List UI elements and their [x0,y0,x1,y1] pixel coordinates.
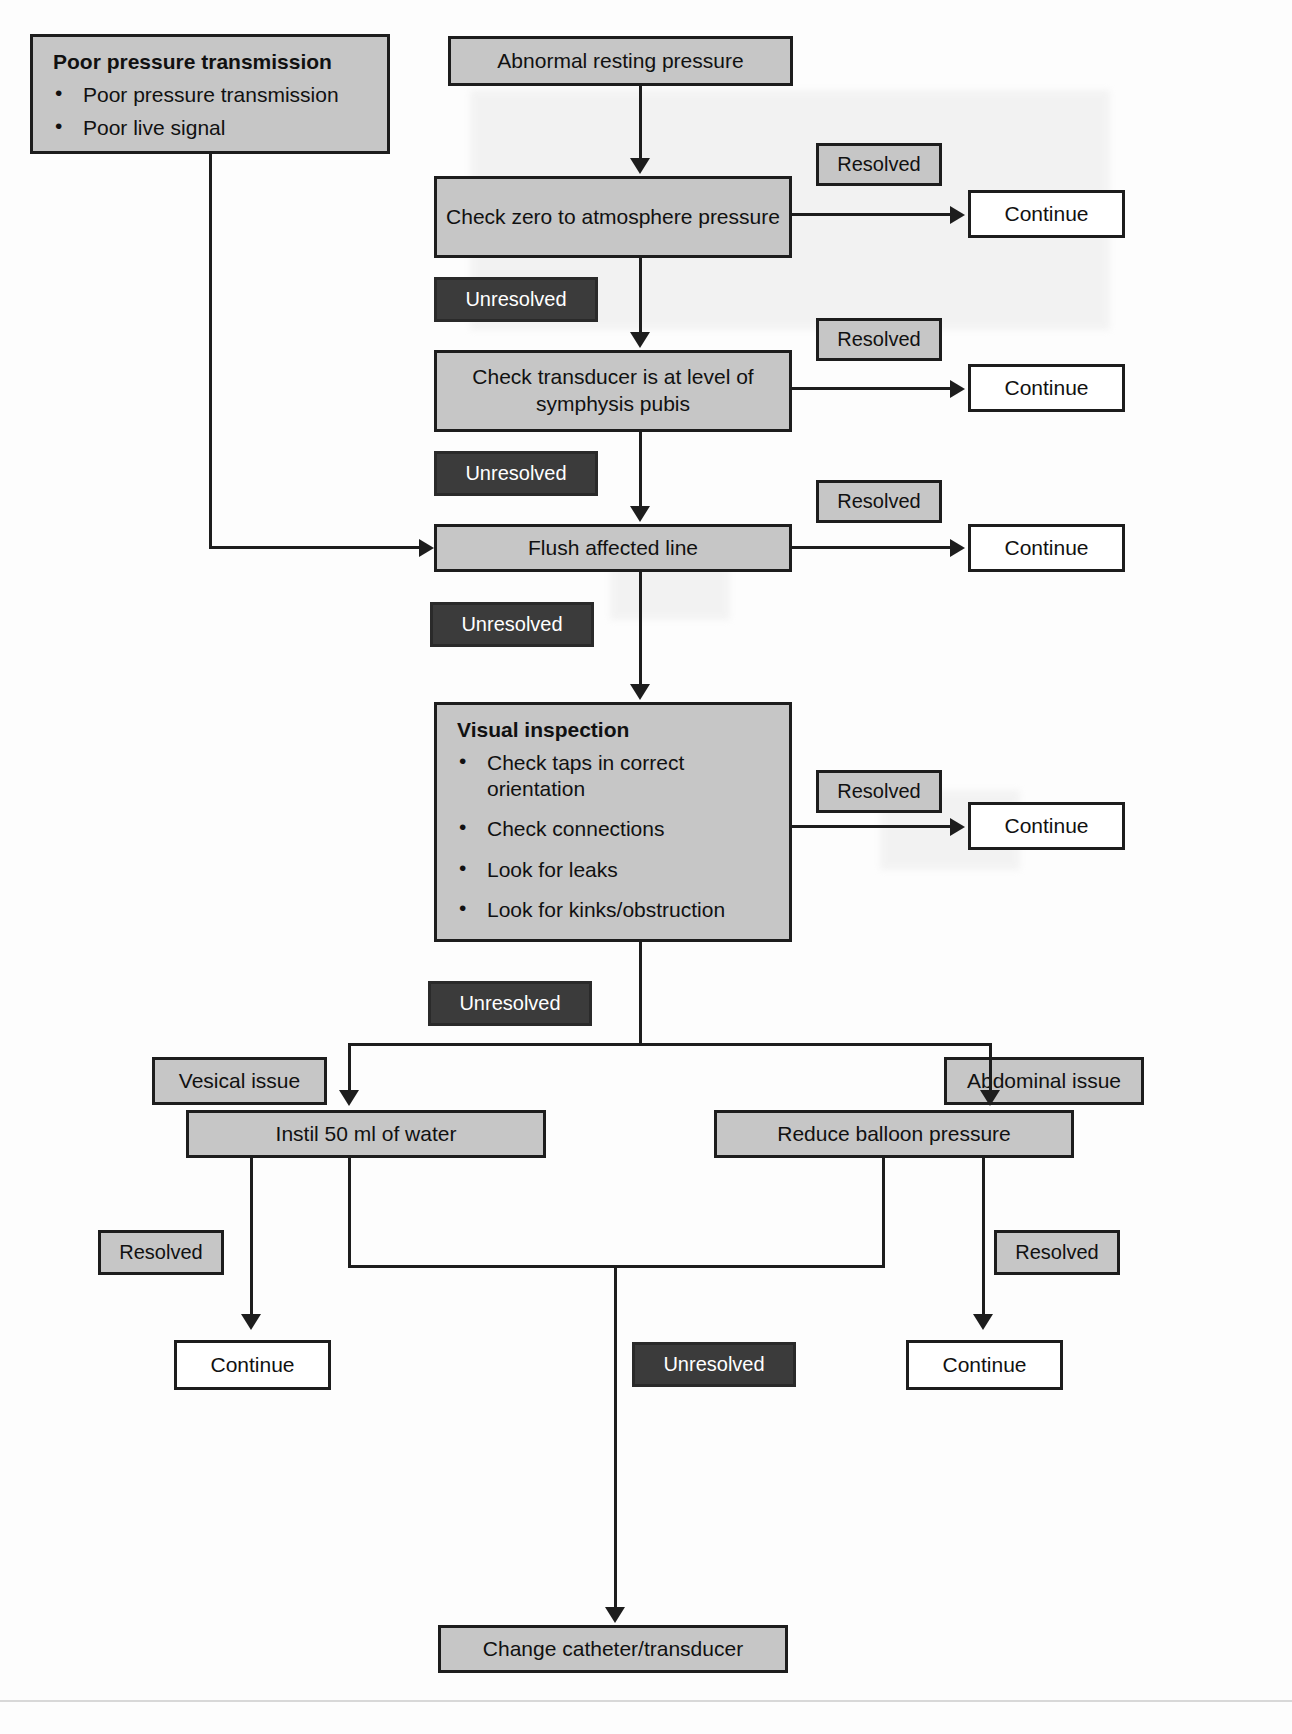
visual-inspection-heading: Visual inspection [457,717,775,744]
node-check-zero[interactable]: Check zero to atmosphere pressure [434,176,792,258]
arrow-into-instil-water [339,1090,359,1106]
edge-label-unresolved[interactable]: Unresolved [434,277,598,322]
arrow-into-change-catheter [605,1607,625,1623]
list-item: Poor live signal [49,115,373,141]
edge-visual-down [639,942,642,1046]
flowchart-page: Poor pressure transmission Poor pressure… [0,0,1292,1734]
list-item: Look for leaks [453,857,775,883]
arrow-into-visual-inspection [630,684,650,700]
edge-flush-to-visual [639,572,642,686]
node-change-catheter[interactable]: Change catheter/transducer [438,1625,788,1673]
edge-checkzero-to-transducer [639,258,642,334]
list-item: Check connections [453,816,775,842]
list-item: Poor pressure transmission [49,82,373,108]
node-reduce-balloon-pressure[interactable]: Reduce balloon pressure [714,1110,1074,1158]
edge-label-resolved[interactable]: Resolved [994,1230,1120,1275]
arrow-into-continue-1 [950,206,965,224]
edge-visual-resolved [792,825,950,828]
edge-instil-unresolved-down [348,1158,351,1268]
arrow-into-flush [630,506,650,522]
edge-label-unresolved[interactable]: Unresolved [434,451,598,496]
visual-inspection-list: Check taps in correct orientation Check … [453,750,775,923]
arrow-into-continue-5 [241,1314,261,1330]
list-item: Check taps in correct orientation [453,750,775,803]
edge-instil-resolved [250,1158,253,1316]
arrow-into-check-zero [630,158,650,174]
edge-poortransmission-down [209,154,212,549]
edge-label-resolved[interactable]: Resolved [816,480,942,523]
edge-bus-left-drop [348,1043,351,1092]
edge-label-unresolved[interactable]: Unresolved [430,602,594,647]
edge-label-resolved[interactable]: Resolved [98,1230,224,1275]
edge-balloon-unresolved-down [882,1158,885,1268]
edge-bus-right-drop [989,1043,992,1092]
edge-label-resolved[interactable]: Resolved [816,318,942,361]
poor-transmission-heading: Poor pressure transmission [53,49,373,76]
arrow-into-continue-3 [950,539,965,557]
edge-abnormal-to-checkzero [639,86,642,160]
edge-balloon-resolved [982,1158,985,1316]
edge-label-unresolved[interactable]: Unresolved [632,1342,796,1387]
edge-flush-resolved [792,546,950,549]
node-poor-pressure-transmission[interactable]: Poor pressure transmission Poor pressure… [30,34,390,154]
edge-checkzero-resolved [792,213,950,216]
terminal-continue[interactable]: Continue [968,364,1125,412]
arrow-into-continue-6 [973,1314,993,1330]
poor-transmission-list: Poor pressure transmission Poor live sig… [49,82,373,142]
edge-poortransmission-right [209,546,419,549]
terminal-continue[interactable]: Continue [174,1340,331,1390]
terminal-continue[interactable]: Continue [968,190,1125,238]
arrow-into-continue-2 [950,380,965,398]
list-item: Look for kinks/obstruction [453,897,775,923]
node-instil-water[interactable]: Instil 50 ml of water [186,1110,546,1158]
edge-merge-to-change-catheter [614,1265,617,1610]
edge-transducer-to-flush [639,432,642,508]
node-flush-affected-line[interactable]: Flush affected line [434,524,792,572]
edge-label-resolved[interactable]: Resolved [816,770,942,813]
terminal-continue[interactable]: Continue [968,524,1125,572]
node-vesical-issue[interactable]: Vesical issue [152,1057,327,1105]
arrow-into-flush-line [419,539,434,557]
edge-label-resolved[interactable]: Resolved [816,143,942,186]
node-check-transducer[interactable]: Check transducer is at level of symphysi… [434,350,792,432]
terminal-continue[interactable]: Continue [968,802,1125,850]
arrow-into-continue-4 [950,818,965,836]
node-abdominal-issue[interactable]: Abdominal issue [944,1057,1144,1105]
edge-label-unresolved[interactable]: Unresolved [428,981,592,1026]
arrow-into-reduce-balloon [980,1090,1000,1106]
edge-transducer-resolved [792,387,950,390]
edge-branch-bus [348,1043,992,1046]
page-bottom-rule [0,1700,1292,1702]
node-abnormal-resting-pressure[interactable]: Abnormal resting pressure [448,36,793,86]
terminal-continue[interactable]: Continue [906,1340,1063,1390]
node-visual-inspection[interactable]: Visual inspection Check taps in correct … [434,702,792,942]
arrow-into-check-transducer [630,332,650,348]
